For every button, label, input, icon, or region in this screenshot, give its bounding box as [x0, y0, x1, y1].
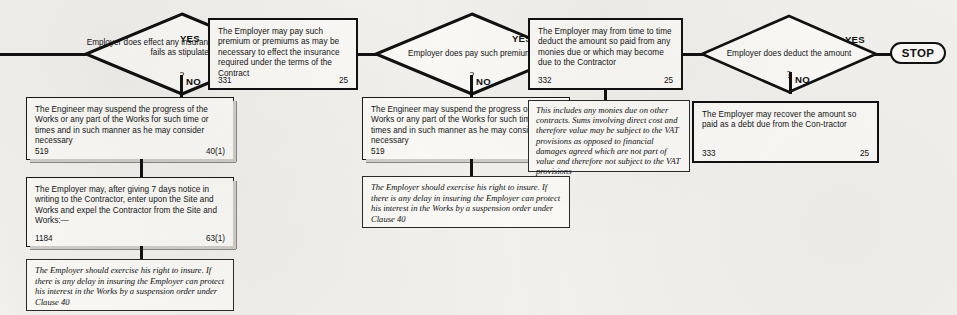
- connector-1184-to-note: [140, 246, 143, 260]
- process-331-text: The Employer may pay such premium or pre…: [218, 27, 348, 79]
- tag-yes-1: YES: [180, 33, 200, 44]
- tag-no-3: NO: [795, 74, 810, 85]
- note-box-suspension-left: The Employer should exercise his right t…: [26, 259, 234, 311]
- process-332-text: The Employer may from time to time deduc…: [538, 27, 673, 69]
- process-box-1184: The Employer may, after giving 7 days no…: [26, 177, 234, 247]
- terminator-stop-label: STOP: [902, 47, 935, 59]
- note-box-suspension-middle: The Employer should exercise his right t…: [362, 176, 570, 228]
- process-519-left-clause: 40(1): [206, 147, 225, 156]
- process-box-519-left: The Engineer may suspend the progress of…: [26, 97, 234, 160]
- process-333-ref: 333: [702, 149, 716, 158]
- process-1184-clause: 63(1): [206, 234, 225, 243]
- flowchart-canvas: Employer does effect any insurance if th…: [0, 0, 957, 315]
- process-519-left-text: The Engineer may suspend the progress of…: [35, 105, 225, 147]
- process-331-clause: 25: [339, 76, 348, 85]
- note-box-vat-provisions: This includes any monies due on other co…: [528, 100, 690, 172]
- connector-d3-no: [789, 72, 792, 94]
- note-1-text: The Employer should exercise his right t…: [35, 265, 224, 307]
- connector-d1-no: [180, 75, 183, 97]
- tag-yes-3: YES: [845, 34, 865, 45]
- process-519-left-ref: 519: [35, 147, 49, 156]
- process-333-text: The Employer may recover the amount so p…: [702, 110, 869, 131]
- process-box-331: The Employer may pay such premium or pre…: [208, 18, 358, 90]
- process-332-ref: 332: [538, 76, 552, 85]
- process-box-333: The Employer may recover the amount so p…: [692, 101, 879, 163]
- tag-no-2: NO: [476, 76, 491, 87]
- process-519-middle-ref: 519: [371, 147, 385, 156]
- connector-519m-to-note: [470, 159, 473, 177]
- tag-no-1: NO: [186, 76, 201, 87]
- terminator-stop: STOP: [890, 42, 946, 64]
- entry-connector: [0, 53, 86, 56]
- process-box-332: The Employer may from time to time deduc…: [528, 18, 683, 90]
- process-332-clause: 25: [664, 76, 673, 85]
- process-331-ref: 331: [218, 76, 232, 85]
- process-333-clause: 25: [860, 149, 869, 158]
- connector-519-to-1184: [140, 159, 143, 177]
- note-3-text: This includes any monies due on other co…: [536, 105, 680, 176]
- note-2-text: The Employer should exercise his right t…: [371, 182, 560, 224]
- connector-d2-no: [470, 75, 473, 97]
- process-1184-text: The Employer may, after giving 7 days no…: [35, 185, 225, 227]
- process-1184-ref: 1184: [35, 234, 53, 243]
